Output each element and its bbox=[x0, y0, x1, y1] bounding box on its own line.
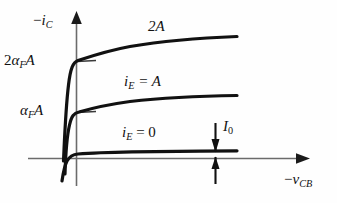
curve-label-ie-a-sub: E bbox=[128, 80, 134, 91]
i0-label-sub: 0 bbox=[228, 125, 233, 136]
curve-label-ie-0-sub: E bbox=[126, 131, 132, 142]
annotation-label-i0: I0 bbox=[223, 119, 233, 137]
y-tick-label-alphaF-A: αFA bbox=[20, 103, 43, 121]
x-axis-label: −vCB bbox=[284, 172, 312, 190]
curve-label-ie-a: iE = A bbox=[124, 74, 161, 92]
curve-label-ie-0: iE = 0 bbox=[122, 125, 156, 143]
x-axis-arrowhead bbox=[296, 153, 310, 164]
y-axis-label-sub: C bbox=[46, 19, 53, 30]
tick-2af-coefficient: 2 bbox=[4, 52, 12, 68]
tick-af-alpha: α bbox=[20, 102, 28, 118]
curve-label-ie-0-eq: = 0 bbox=[136, 124, 156, 140]
x-axis-label-sub: CB bbox=[299, 178, 312, 189]
tick-af-amplitude: A bbox=[34, 102, 43, 118]
curve-label-2a: 2A bbox=[148, 19, 165, 34]
y-axis-label: −iC bbox=[33, 13, 52, 31]
curve-label-ie-a-eq: = A bbox=[138, 73, 161, 89]
tick-2af-amplitude: A bbox=[26, 52, 35, 68]
figure-bjt-output-characteristics: −iC −vCB 2αFA αFA 2A iE = A iE = 0 I0 bbox=[0, 0, 337, 203]
curve-label-2a-text: 2A bbox=[148, 18, 165, 34]
y-tick-label-2alphaF-A: 2αFA bbox=[4, 53, 35, 71]
y-axis bbox=[71, 11, 82, 186]
y-axis-arrowhead bbox=[71, 11, 82, 24]
annotation-i0-arrow bbox=[212, 123, 220, 184]
curve-ie-0 bbox=[62, 151, 237, 181]
